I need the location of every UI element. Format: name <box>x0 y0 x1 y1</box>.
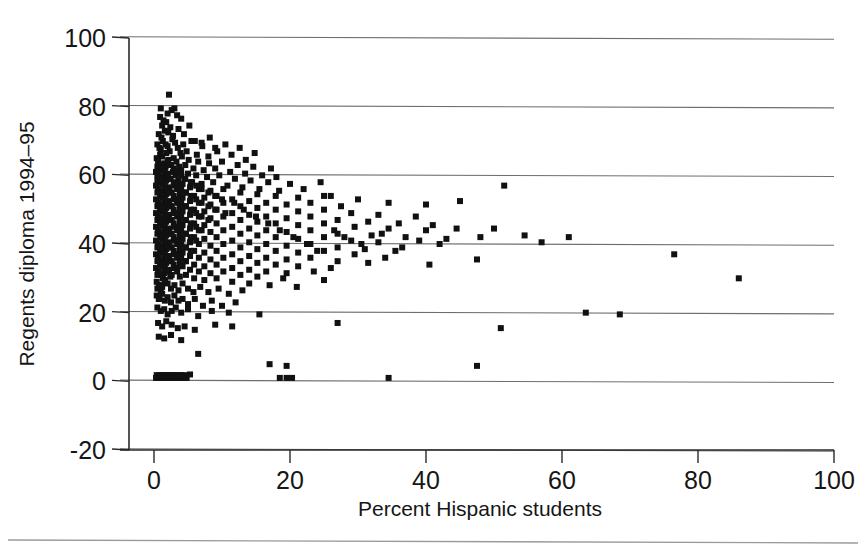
data-point <box>241 207 247 213</box>
data-point <box>284 270 290 276</box>
x-tick-label-60: 60 <box>548 466 576 494</box>
data-point <box>229 251 235 257</box>
data-point <box>246 226 252 232</box>
data-point <box>175 126 181 132</box>
data-point <box>254 232 260 238</box>
data-point <box>182 244 188 250</box>
data-point <box>237 190 243 196</box>
data-point <box>321 234 327 240</box>
data-point <box>187 184 193 190</box>
data-point <box>195 351 201 357</box>
data-point <box>188 220 194 226</box>
data-point <box>180 296 186 302</box>
data-point <box>214 148 220 154</box>
data-point <box>161 306 167 312</box>
data-point <box>457 198 463 204</box>
plot-canvas: -20020406080100 020406080100 Percent His… <box>0 0 865 549</box>
data-point <box>166 92 172 98</box>
data-point <box>180 280 186 286</box>
data-point <box>199 200 205 206</box>
data-point <box>239 184 245 190</box>
data-point <box>295 222 301 228</box>
data-point <box>178 310 184 316</box>
data-point <box>183 272 189 278</box>
data-point <box>175 287 181 293</box>
data-point <box>365 219 371 225</box>
data-point <box>248 177 254 183</box>
data-point <box>205 153 211 159</box>
data-point <box>182 258 188 264</box>
data-point <box>174 265 180 271</box>
data-point <box>256 186 262 192</box>
data-point <box>205 203 211 209</box>
data-point <box>235 162 241 168</box>
data-point <box>219 159 225 165</box>
data-point <box>243 157 249 163</box>
data-point <box>163 318 169 324</box>
data-point <box>328 193 334 199</box>
data-point <box>199 186 205 192</box>
gridline-y-80 <box>120 105 834 107</box>
data-point <box>237 217 243 223</box>
data-point <box>167 124 173 130</box>
data-point <box>375 212 381 218</box>
data-point <box>246 253 252 259</box>
data-point <box>187 198 193 204</box>
data-point <box>491 226 497 232</box>
data-point <box>205 289 211 295</box>
data-point <box>214 262 220 268</box>
data-point <box>430 222 436 228</box>
data-point <box>156 334 162 340</box>
data-point <box>158 147 164 153</box>
data-point <box>284 375 290 381</box>
data-point <box>254 219 260 225</box>
data-point <box>229 210 235 216</box>
y-tick-label-100: 100 <box>64 24 106 52</box>
data-point <box>192 327 198 333</box>
data-point <box>168 299 174 305</box>
data-point <box>539 239 545 245</box>
data-point <box>158 105 164 111</box>
data-point <box>273 248 279 254</box>
data-point <box>355 196 361 202</box>
y-tickmark-100 <box>112 37 129 38</box>
y-tick-label--20: -20 <box>70 436 106 464</box>
data-point <box>379 231 385 237</box>
data-point <box>237 258 243 264</box>
data-point <box>386 226 392 232</box>
data-point <box>284 243 290 249</box>
data-point <box>197 284 203 290</box>
data-point <box>212 207 218 213</box>
y-axis-tickmarks <box>112 37 129 450</box>
data-point <box>233 299 239 305</box>
data-point <box>220 268 226 274</box>
data-point <box>273 207 279 213</box>
data-point <box>201 208 207 214</box>
data-point <box>277 227 283 233</box>
data-point <box>187 239 193 245</box>
scatter-data-points <box>153 92 742 381</box>
data-point <box>284 229 290 235</box>
data-point <box>477 234 483 240</box>
data-point <box>220 227 226 233</box>
data-point <box>173 159 179 165</box>
data-point <box>273 234 279 240</box>
data-point <box>284 202 290 208</box>
data-point <box>212 165 218 171</box>
data-point <box>193 172 199 178</box>
data-point <box>182 217 188 223</box>
data-point <box>321 193 327 199</box>
data-point <box>219 303 225 309</box>
y-tickmark--20 <box>112 449 129 450</box>
data-point <box>205 217 211 223</box>
data-point <box>237 231 243 237</box>
data-point <box>171 293 177 299</box>
data-point <box>226 291 232 297</box>
bottom-divider-rule <box>8 540 858 543</box>
data-point <box>232 176 238 182</box>
data-point <box>195 159 201 165</box>
data-point <box>277 375 283 381</box>
data-point <box>328 265 334 271</box>
data-point <box>167 274 173 280</box>
data-point <box>180 181 186 187</box>
